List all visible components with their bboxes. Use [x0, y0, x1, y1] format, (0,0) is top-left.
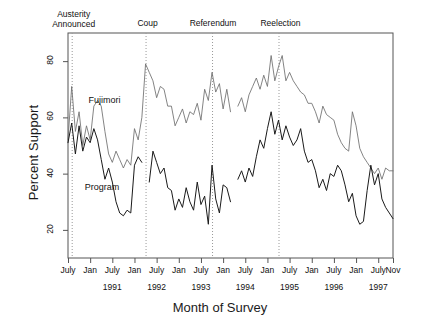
- x-year-label: 1994: [225, 282, 265, 292]
- series-line-program: [149, 151, 230, 224]
- event-label-austerity: AusterityAnnounced: [44, 10, 104, 29]
- chart-figure: Percent Support Month of Survey Austerit…: [0, 0, 440, 325]
- series-line-fujimori: [238, 56, 393, 180]
- event-label-reelection: Reelection: [253, 19, 309, 29]
- x-year-label: 1996: [314, 282, 354, 292]
- plot-area: [0, 0, 440, 325]
- x-year-label: 1992: [137, 282, 177, 292]
- series-label-fujimori: Fujimori: [88, 95, 120, 105]
- event-label-referendum: Referendum: [183, 19, 243, 29]
- series-line-fujimori: [68, 64, 231, 168]
- series-label-program: Program: [85, 182, 120, 192]
- x-year-label: 1995: [270, 282, 310, 292]
- event-label-coup: Coup: [128, 19, 168, 29]
- plot-frame: [68, 33, 393, 258]
- x-tick-label: Nov: [378, 265, 408, 275]
- y-axis-title: Percent Support: [26, 73, 41, 233]
- event-label-line2: Announced: [44, 20, 104, 30]
- x-year-label: 1993: [181, 282, 221, 292]
- y-tick-label: 80: [45, 50, 55, 70]
- x-year-label: 1991: [92, 282, 132, 292]
- series-line-program: [68, 123, 142, 216]
- y-tick-label: 60: [45, 106, 55, 126]
- x-year-label: 1997: [358, 282, 398, 292]
- y-tick-label: 20: [45, 219, 55, 239]
- x-axis-title: Month of Survey: [0, 300, 440, 315]
- y-tick-label: 40: [45, 163, 55, 183]
- series-line-program: [238, 112, 393, 225]
